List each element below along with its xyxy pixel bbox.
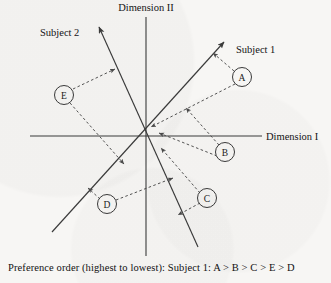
- dimension-ii-label: Dimension II: [118, 2, 174, 13]
- axes-group: [30, 17, 262, 256]
- projection-c-to-subject-1: [161, 148, 200, 193]
- projection-b-to-subject-1: [186, 108, 219, 145]
- projection-a-to-subject-1: [213, 53, 234, 71]
- labels-group: Dimension II Dimension I Subject 1 Subje…: [40, 2, 319, 142]
- point-d-label: D: [104, 200, 111, 210]
- dimension-i-label: Dimension I: [266, 131, 319, 142]
- point-b-label: B: [222, 148, 228, 158]
- stimulus-point-a[interactable]: A: [233, 68, 252, 87]
- stimulus-points-group: A B C D E: [55, 68, 252, 214]
- subject-vectors-group: [52, 27, 224, 247]
- stimulus-point-b[interactable]: B: [216, 143, 235, 162]
- projection-e-to-subject-1: [70, 103, 124, 164]
- subject-2-label: Subject 2: [40, 27, 79, 38]
- preference-vector-diagram: A B C D E Dimension II Dimension I Subje: [0, 0, 331, 283]
- stimulus-point-d[interactable]: D: [98, 195, 117, 214]
- diagram-canvas: A B C D E Dimension II Dimension I Subje: [0, 0, 331, 283]
- figure-caption: Preference order (highest to lowest): Su…: [8, 262, 295, 273]
- projection-a-to-subject-2: [151, 84, 235, 127]
- stimulus-point-c[interactable]: C: [198, 189, 217, 208]
- subject-1-label: Subject 1: [236, 44, 275, 55]
- subject-2-vector: [99, 27, 198, 247]
- projection-d-to-subject-2: [116, 178, 173, 200]
- projection-e-to-subject-2: [73, 69, 115, 89]
- point-a-label: A: [239, 73, 246, 83]
- point-e-label: E: [61, 91, 67, 101]
- point-c-label: C: [204, 194, 210, 204]
- stimulus-point-e[interactable]: E: [55, 86, 74, 105]
